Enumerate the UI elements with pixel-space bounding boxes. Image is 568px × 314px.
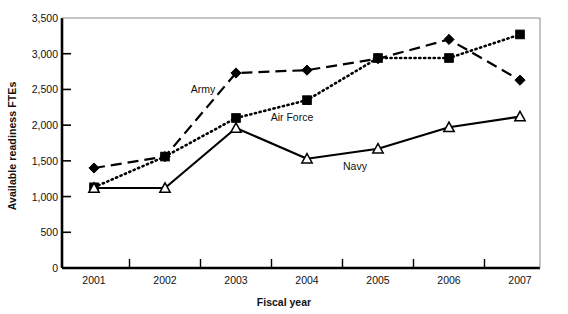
marker-army <box>515 75 525 85</box>
marker-army <box>89 163 99 173</box>
marker-air-force <box>445 54 454 63</box>
marker-air-force <box>516 30 525 39</box>
marker-navy <box>231 123 241 132</box>
marker-army <box>302 65 312 75</box>
marker-air-force <box>232 114 241 123</box>
series-line-air-force <box>94 34 520 187</box>
marker-air-force <box>161 152 170 161</box>
marker-air-force <box>303 96 312 105</box>
plot-canvas <box>0 0 568 314</box>
marker-air-force <box>374 54 383 63</box>
line-chart: Available readiness FTEs Fiscal year 050… <box>0 0 568 314</box>
marker-army <box>444 34 454 44</box>
